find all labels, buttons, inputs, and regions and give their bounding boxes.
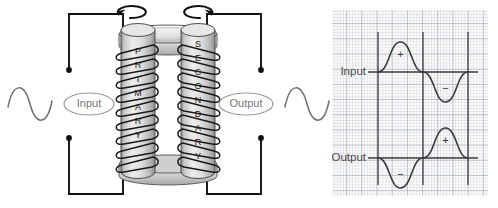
primary-letter: A: [135, 102, 141, 112]
primary-letter: P: [135, 46, 141, 56]
output-plot: Output − +: [332, 128, 478, 188]
secondary-letter: R: [195, 137, 202, 147]
input-port-label: Input: [77, 97, 101, 109]
secondary-letter: E: [195, 53, 201, 63]
secondary-letter: C: [195, 67, 202, 77]
input-terminal-bottom: [66, 135, 123, 194]
secondary-letter: O: [194, 81, 201, 91]
flux-arrow-left: [117, 6, 146, 18]
input-negative-sign: −: [442, 82, 448, 94]
output-port[interactable]: Output: [219, 93, 273, 115]
transformer-svg: P R I M A R Y S E C O N D A R Y: [0, 0, 332, 208]
input-sine-wave: [8, 88, 52, 120]
secondary-letter: S: [195, 39, 201, 49]
input-axis-label: Input: [340, 65, 366, 77]
waveform-svg: Input + − Output − +: [332, 10, 488, 196]
secondary-letter: Y: [195, 151, 201, 161]
waveform-graph-panel: Input + − Output − +: [332, 10, 488, 196]
input-terminal-top: [66, 14, 123, 73]
primary-letter: M: [134, 88, 142, 98]
output-sine-wave: [285, 88, 329, 120]
figure-canvas: P R I M A R Y S E C O N D A R Y: [0, 0, 498, 208]
secondary-label: S E C O N D A R Y: [194, 39, 201, 161]
secondary-letter: A: [195, 123, 201, 133]
secondary-letter: D: [195, 109, 202, 119]
primary-label: P R I M A R Y: [134, 46, 142, 140]
secondary-letter: N: [195, 95, 202, 105]
output-negative-sign: −: [397, 168, 403, 180]
primary-letter: R: [135, 116, 142, 126]
input-positive-sign: +: [397, 48, 403, 60]
input-port[interactable]: Input: [64, 93, 114, 115]
output-port-label: Output: [229, 97, 262, 109]
flux-arrow-right: [184, 6, 213, 18]
input-plot: Input + −: [340, 42, 478, 102]
output-positive-sign: +: [442, 134, 448, 146]
output-axis-label: Output: [332, 151, 367, 163]
primary-letter: I: [137, 74, 140, 84]
primary-letter: Y: [135, 130, 141, 140]
primary-letter: R: [135, 60, 142, 70]
transformer-diagram: P R I M A R Y S E C O N D A R Y: [0, 0, 332, 208]
